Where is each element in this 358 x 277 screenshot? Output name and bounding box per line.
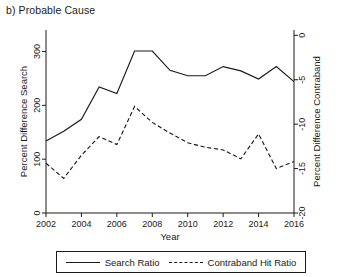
y-tick-label-right: -5: [297, 76, 307, 84]
legend-label: Search Ratio: [105, 257, 160, 268]
legend-label: Contraband Hit Ratio: [208, 257, 297, 268]
x-tick-label: 2010: [178, 219, 198, 229]
series-line-search-ratio: [46, 51, 294, 141]
figure-panel: b) Probable Cause 2002200420062008201020…: [0, 0, 358, 277]
y-axis-label-left: Percent Difference Search: [18, 66, 29, 177]
y-tick-label-right: 0: [297, 33, 307, 38]
y-tick-label-right: -15: [297, 162, 307, 175]
x-tick-label: 2014: [249, 219, 269, 229]
chart-legend: Search RatioContraband Hit Ratio: [56, 251, 306, 273]
x-tick-label: 2008: [142, 219, 162, 229]
chart-plot-area: 20022004200620082010201220142016Year0100…: [0, 0, 358, 277]
y-tick-label-right: -20: [297, 206, 307, 219]
y-axis-label-right: Percent Difference Contraband: [311, 56, 322, 187]
y-tick-label-left: 200: [32, 98, 42, 113]
x-tick-label: 2004: [71, 219, 91, 229]
y-tick-label-left: 300: [32, 44, 42, 59]
y-tick-label-right: -10: [297, 118, 307, 131]
x-tick-label: 2012: [213, 219, 233, 229]
x-tick-label: 2006: [107, 219, 127, 229]
solid-line-swatch: [66, 262, 100, 263]
legend-item-search-ratio: Search Ratio: [66, 257, 160, 268]
legend-item-contraband-hit-ratio: Contraband Hit Ratio: [169, 257, 297, 268]
y-tick-label-left: 0: [32, 210, 42, 215]
dashed-line-swatch: [169, 262, 203, 263]
x-tick-label: 2002: [36, 219, 56, 229]
y-tick-label-left: 100: [32, 152, 42, 167]
x-axis-label: Year: [160, 231, 179, 242]
